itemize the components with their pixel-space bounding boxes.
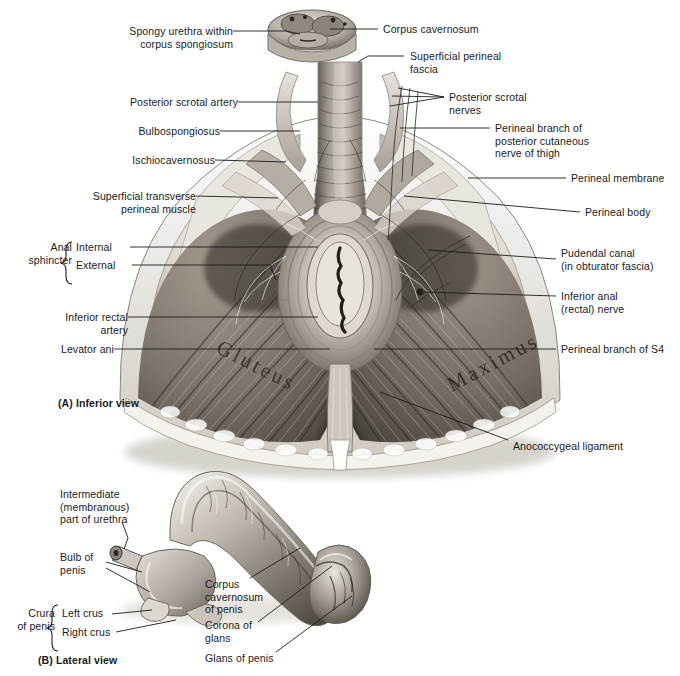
- label-crura-group: Cruraof penis: [0, 607, 55, 632]
- label-superficial-transverse-perineal-muscle: Superficial transverseperineal muscle: [42, 190, 196, 215]
- label-corona-of-glans: Corona ofglans: [205, 619, 252, 644]
- label-left-crus: Left crus: [62, 607, 103, 620]
- label-pudendal-canal: Pudendal canal(in obturator fascia): [561, 247, 654, 272]
- leader-right-crus: [116, 620, 176, 632]
- leader-posterior-scrotal-nerves-1: [398, 88, 444, 97]
- label-perineal-body: Perineal body: [585, 206, 651, 219]
- label-levator-ani: Levator ani: [40, 343, 114, 356]
- label-internal-sphincter: Internal: [76, 241, 112, 254]
- label-perineal-branch-posterior-cutaneous-nerve-thigh: Perineal branch ofposterior cutaneousner…: [495, 122, 589, 160]
- label-external-sphincter: External: [76, 259, 115, 272]
- panel-a-artwork: Gluteus Maximus: [120, 10, 560, 478]
- label-superficial-perineal-fascia: Superficial perinealfascia: [410, 50, 501, 75]
- label-perineal-membrane: Perineal membrane: [571, 172, 664, 185]
- penis-cross-section: [268, 10, 356, 62]
- label-bulb-of-penis: Bulb ofpenis: [60, 551, 93, 576]
- label-anococcygeal-ligament: Anococcygeal ligament: [513, 440, 623, 453]
- panel-a-caption: (A) Inferior view: [58, 397, 139, 410]
- label-inferior-anal-rectal-nerve: Inferior anal(rectal) nerve: [561, 290, 624, 315]
- label-corpus-cavernosum: Corpus cavernosum: [383, 23, 479, 36]
- label-posterior-scrotal-artery: Posterior scrotal artery: [98, 96, 238, 109]
- label-corpus-cavernosum-of-penis: Corpuscavernosumof penis: [205, 578, 263, 616]
- label-anal-sphincter-group: Analsphincter: [10, 241, 72, 266]
- label-ischiocavernosus: Ischiocavernosus: [110, 154, 215, 167]
- label-bulbospongiosus: Bulbospongiosus: [110, 125, 220, 138]
- label-spongy-urethra: Spongy urethra withincorpus spongiosum: [113, 25, 233, 50]
- label-glans-of-penis: Glans of penis: [205, 652, 274, 665]
- leader-superficial-perineal-fascia: [358, 56, 404, 62]
- label-inferior-rectal-artery: Inferior rectalartery: [40, 311, 128, 336]
- label-perineal-branch-of-s4: Perineal branch of S4: [561, 343, 664, 356]
- panel-b-caption: (B) Lateral view: [38, 654, 117, 667]
- label-posterior-scrotal-nerves: Posterior scrotalnerves: [449, 91, 527, 116]
- leader-intermediate-urethra: [122, 522, 128, 549]
- label-intermediate-membranous-part-of-urethra: Intermediate(membranous)part of urethra: [60, 488, 129, 526]
- label-right-crus: Right crus: [62, 626, 110, 639]
